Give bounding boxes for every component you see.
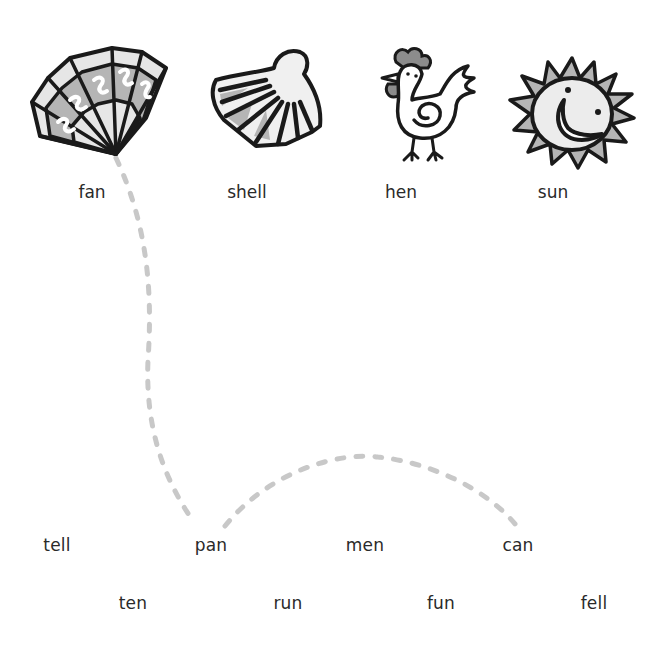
word-ten[interactable]: ten bbox=[119, 593, 148, 613]
word-fun[interactable]: fun bbox=[427, 593, 455, 613]
picture-label-hen: hen bbox=[385, 182, 417, 202]
picture-fan[interactable] bbox=[28, 46, 170, 158]
word-tell[interactable]: tell bbox=[43, 535, 70, 555]
fan-icon bbox=[28, 46, 170, 158]
picture-label-sun: sun bbox=[538, 182, 568, 202]
word-fell[interactable]: fell bbox=[581, 593, 608, 613]
hen-icon bbox=[378, 44, 476, 164]
word-men[interactable]: men bbox=[346, 535, 384, 555]
rhyme-matching-worksheet: fan shell bbox=[0, 0, 657, 653]
picture-shell[interactable] bbox=[208, 48, 326, 150]
picture-label-shell: shell bbox=[227, 182, 267, 202]
picture-sun[interactable] bbox=[508, 56, 636, 168]
word-run[interactable]: run bbox=[273, 593, 302, 613]
word-pan[interactable]: pan bbox=[195, 535, 228, 555]
shell-icon bbox=[208, 48, 326, 150]
picture-hen[interactable] bbox=[378, 44, 476, 164]
picture-label-fan: fan bbox=[78, 182, 105, 202]
word-can[interactable]: can bbox=[502, 535, 533, 555]
sun-icon bbox=[508, 56, 636, 168]
